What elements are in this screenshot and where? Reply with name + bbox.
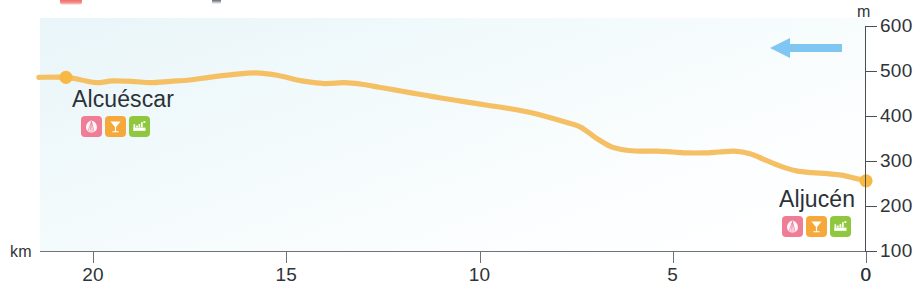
restaurant-icon[interactable]: [105, 116, 126, 137]
y-tick-label-300: 300: [880, 150, 913, 172]
y-tick-label-200: 200: [880, 195, 913, 217]
place-name-aljucen: Aljucén: [779, 188, 855, 211]
x-tick-10: [480, 252, 481, 263]
y-tick-300: [866, 161, 877, 162]
x-tick-5: [673, 252, 674, 263]
marker-aljucen: [859, 174, 872, 187]
x-tick-label-10: 10: [469, 264, 491, 286]
x-tick-label-20: 20: [82, 264, 104, 286]
lodging-icon[interactable]: [830, 216, 851, 237]
y-tick-200: [866, 206, 877, 207]
y-tick-500: [866, 71, 877, 72]
x-tick-label-15: 15: [275, 264, 297, 286]
axis-origin-label: 0: [861, 264, 872, 286]
shell-icon[interactable]: [81, 116, 102, 137]
place-label-aljucen[interactable]: Aljucén: [779, 188, 855, 237]
y-axis-unit-label: m: [857, 3, 871, 21]
elevation-profile-chart: 201510506005004003002001000 km m Alcuésc…: [0, 0, 923, 295]
lodging-icon[interactable]: [129, 116, 150, 137]
x-tick-15: [286, 252, 287, 263]
y-tick-label-400: 400: [880, 105, 913, 127]
y-axis-line: [865, 26, 866, 252]
shell-icon[interactable]: [782, 216, 803, 237]
poi-row-aljucen: [782, 216, 855, 237]
direction-arrow-icon: [768, 35, 844, 65]
x-tick-0: [866, 252, 867, 263]
x-tick-label-5: 5: [667, 264, 678, 286]
place-label-alcuescar[interactable]: Alcuéscar: [72, 88, 174, 137]
marker-alcuescar: [59, 71, 72, 84]
x-axis-unit-label: km: [10, 243, 32, 261]
y-tick-label-600: 600: [880, 15, 913, 37]
y-tick-label-500: 500: [880, 60, 913, 82]
restaurant-icon[interactable]: [806, 216, 827, 237]
x-tick-20: [93, 252, 94, 263]
y-tick-label-100: 100: [880, 240, 913, 262]
y-tick-400: [866, 116, 877, 117]
y-tick-600: [866, 26, 877, 27]
poi-row-alcuescar: [81, 116, 174, 137]
y-tick-100: [866, 251, 877, 252]
x-axis-line: [40, 251, 868, 252]
place-name-alcuescar: Alcuéscar: [72, 88, 174, 111]
